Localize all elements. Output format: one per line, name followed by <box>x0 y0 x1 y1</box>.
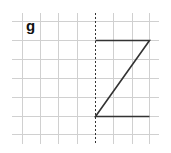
figure-label: g <box>26 18 35 33</box>
